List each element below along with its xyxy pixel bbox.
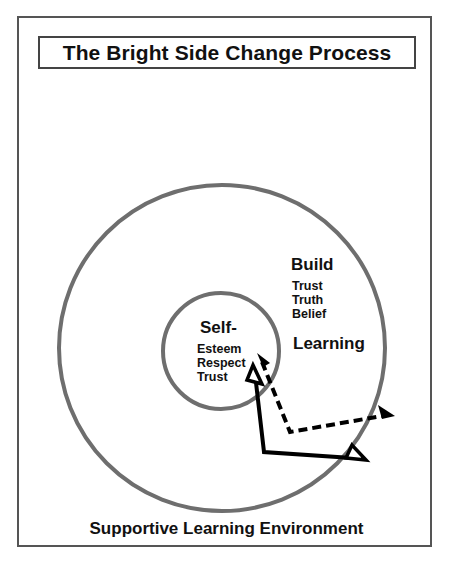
build-heading: Build bbox=[291, 255, 334, 275]
change-process-diagram bbox=[0, 0, 453, 571]
solid-arrow bbox=[247, 365, 366, 460]
self-item-trust: Trust bbox=[197, 370, 228, 384]
self-heading: Self- bbox=[200, 318, 237, 338]
self-item-esteem: Esteem bbox=[197, 342, 241, 356]
build-item-truth: Truth bbox=[292, 293, 323, 307]
self-item-respect: Respect bbox=[197, 356, 246, 370]
learning-label: Learning bbox=[293, 334, 365, 354]
build-item-belief: Belief bbox=[292, 307, 326, 321]
build-item-trust: Trust bbox=[292, 279, 323, 293]
footer-label: Supportive Learning Environment bbox=[0, 519, 453, 539]
